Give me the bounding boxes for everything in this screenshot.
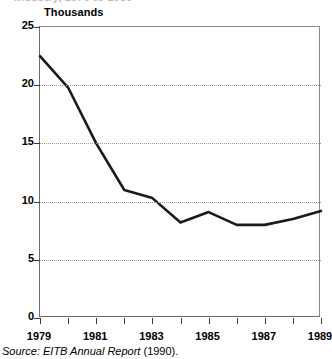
x-axis-tick	[124, 318, 125, 324]
x-axis-tick	[40, 318, 41, 324]
x-axis-tick	[209, 318, 210, 324]
cut-off-caption-text: industry, 1979 to 1989	[14, 0, 133, 3]
y-axis-label: 15	[8, 136, 34, 147]
y-axis-label: 10	[8, 195, 34, 206]
y-axis-label: 20	[8, 78, 34, 89]
source-year: (1990).	[143, 345, 178, 357]
gridline-y	[40, 143, 321, 145]
gridline-y	[40, 85, 321, 87]
source-label: Source:	[2, 345, 40, 357]
data-line-series	[40, 27, 321, 318]
y-axis-title: Thousands	[44, 6, 104, 18]
y-axis-tick	[34, 85, 40, 86]
y-axis-tick	[34, 202, 40, 203]
plot-area	[39, 26, 320, 317]
x-axis-tick	[68, 318, 69, 324]
y-axis-label: 5	[8, 253, 34, 264]
x-axis-tick	[293, 318, 294, 324]
x-axis-tick	[96, 318, 97, 324]
x-axis-tick	[181, 318, 182, 324]
source-publication: EITB Annual Report	[43, 345, 140, 357]
x-axis-label: 1979	[27, 331, 51, 342]
x-axis-label: 1983	[139, 331, 163, 342]
y-axis-tick	[34, 27, 40, 28]
x-axis-label: 1985	[195, 331, 219, 342]
y-axis-tick	[34, 143, 40, 144]
x-axis-tick	[237, 318, 238, 324]
x-axis-label: 1981	[83, 331, 107, 342]
x-axis-tick	[321, 318, 322, 324]
x-axis-label: 1987	[252, 331, 276, 342]
series-line	[40, 56, 321, 225]
gridline-y	[40, 260, 321, 262]
x-axis-tick	[152, 318, 153, 324]
x-axis-label: 1989	[308, 331, 332, 342]
y-axis-label: 25	[8, 20, 34, 31]
y-axis-label: 0	[8, 311, 34, 322]
source-caption: Source: EITB Annual Report (1990).	[2, 345, 178, 357]
plot-inner	[40, 27, 321, 318]
x-axis-tick	[265, 318, 266, 324]
gridline-y	[40, 202, 321, 204]
y-axis-tick	[34, 260, 40, 261]
